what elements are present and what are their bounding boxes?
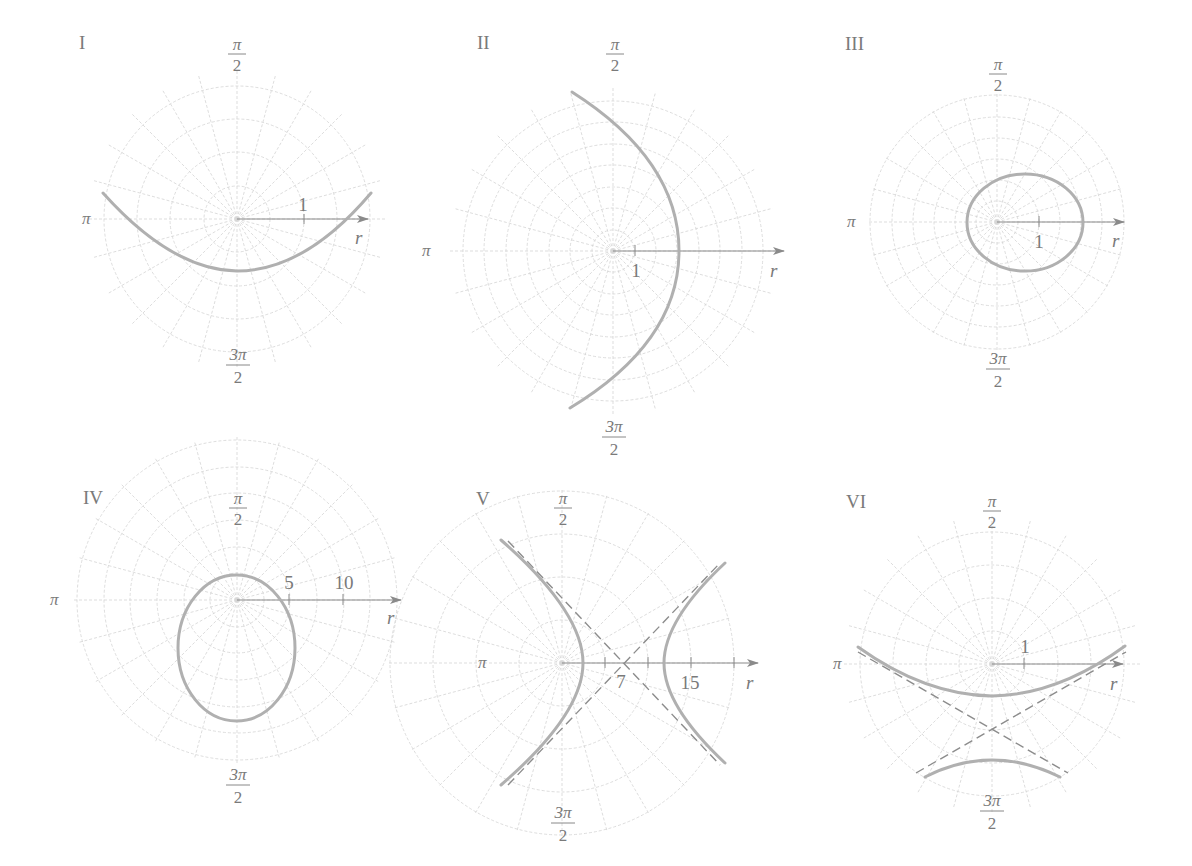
angle-label-pi-over-2: π 2 <box>606 35 624 75</box>
grid-ray <box>438 539 562 663</box>
svg-text:3π: 3π <box>228 345 247 364</box>
axis-label-r: r <box>770 260 778 281</box>
angle-label-pi: π <box>833 654 842 673</box>
axis-label-r: r <box>1112 230 1120 251</box>
grid-ray <box>997 222 1062 335</box>
panel-VI: VI π 2 π 3π 2 1 r <box>833 491 1142 833</box>
grid-ray <box>884 157 997 222</box>
panel-label: III <box>845 33 864 54</box>
grid-ray <box>613 108 696 251</box>
svg-text:3π: 3π <box>228 765 247 784</box>
parabola-curve <box>570 92 679 408</box>
panel-IV: IV π 2 π 3π 2 5 10 r <box>50 435 402 807</box>
grid-ray <box>454 251 613 294</box>
angle-label-pi: π <box>422 241 431 260</box>
panel-III: III π 2 π 3π 2 1 r <box>845 33 1127 391</box>
grid-ray <box>613 208 772 251</box>
grid-ray <box>410 663 562 751</box>
panel-I: I π 2 π 3π 2 1 r <box>79 32 387 387</box>
svg-text:2: 2 <box>559 510 568 529</box>
svg-text:2: 2 <box>994 76 1003 95</box>
grid-ray <box>237 457 320 600</box>
svg-text:2: 2 <box>559 826 568 845</box>
svg-text:2: 2 <box>988 513 997 532</box>
svg-text:π: π <box>988 492 997 511</box>
angle-label-pi-over-2: π 2 <box>983 492 1001 532</box>
grid-ray <box>237 74 276 219</box>
grid-ray <box>613 169 756 252</box>
grid-ray <box>992 664 1098 770</box>
grid-ray <box>237 600 380 683</box>
angle-label-pi-over-2: π 2 <box>229 489 247 529</box>
grid-ray <box>932 109 997 222</box>
ellipse-curve <box>178 575 295 721</box>
grid-ray <box>438 663 562 787</box>
grid-ray <box>496 251 613 368</box>
grid-ray <box>94 518 237 601</box>
grid-ray <box>237 600 280 759</box>
angle-label-3pi-over-2: 3π 2 <box>602 417 626 459</box>
grid-ray <box>886 558 992 664</box>
grid-ray <box>613 92 656 251</box>
tick-label: 1 <box>298 194 308 215</box>
grid-ray <box>155 457 238 600</box>
panel-label: II <box>477 32 490 53</box>
grid-ray <box>155 600 238 743</box>
hyperbola-lower-branch <box>925 760 1060 777</box>
grid-ray <box>997 109 1062 222</box>
angle-label-pi: π <box>50 590 59 609</box>
svg-text:3π: 3π <box>982 791 1001 810</box>
grid-ray <box>997 222 1031 348</box>
grid-ray <box>470 251 613 334</box>
axis-label-r: r <box>746 672 754 693</box>
tick-label: 10 <box>335 572 354 593</box>
tick-label: 7 <box>616 671 626 692</box>
angle-label-pi: π <box>82 209 91 228</box>
grid-ray <box>613 134 730 251</box>
grid-ray <box>953 664 992 809</box>
grid-ray <box>847 625 992 664</box>
panel-label: VI <box>846 491 866 512</box>
angle-label-3pi-over-2: 3π 2 <box>986 349 1010 391</box>
grid-ray <box>862 589 992 664</box>
svg-text:2: 2 <box>611 56 620 75</box>
grid-ray <box>237 219 276 364</box>
grid-ray <box>107 219 237 294</box>
grid-ray <box>531 251 614 394</box>
axis-label-r: r <box>355 227 363 248</box>
grid-ray <box>198 219 237 364</box>
grid-ray <box>237 600 320 743</box>
svg-text:3π: 3π <box>988 349 1007 368</box>
angle-label-pi-over-2: π 2 <box>989 55 1007 95</box>
grid-ray <box>992 664 1031 809</box>
angle-label-pi-over-2: π 2 <box>554 489 572 529</box>
svg-text:2: 2 <box>234 788 243 807</box>
grid-ray <box>847 664 992 703</box>
asymptote-dashed <box>858 652 1068 773</box>
grid-ray <box>237 180 382 219</box>
grid-ray <box>131 113 237 219</box>
grid-ray <box>905 222 997 314</box>
grid-ray <box>454 208 613 251</box>
tick-label: 1 <box>631 260 641 281</box>
svg-text:π: π <box>233 35 242 54</box>
panel-label: I <box>79 32 85 53</box>
grid-ray <box>997 222 1110 287</box>
grid-ray <box>932 222 997 335</box>
grid-ray <box>237 219 312 349</box>
svg-text:2: 2 <box>994 372 1003 391</box>
grid-ray <box>613 251 696 394</box>
grid-ray <box>237 518 380 601</box>
svg-text:2: 2 <box>234 368 243 387</box>
svg-text:π: π <box>611 35 620 54</box>
grid-ray <box>78 600 237 643</box>
svg-text:2: 2 <box>234 510 243 529</box>
angle-label-3pi-over-2: 3π 2 <box>226 345 250 387</box>
svg-text:π: π <box>559 489 568 508</box>
svg-text:π: π <box>994 55 1003 74</box>
grid-ray <box>562 511 650 663</box>
tick-label: 5 <box>284 572 294 593</box>
tick-label: 15 <box>681 672 700 693</box>
panel-V: V π 2 π 3π 2 7 15 r <box>387 488 758 845</box>
axis-label-r: r <box>387 607 395 628</box>
